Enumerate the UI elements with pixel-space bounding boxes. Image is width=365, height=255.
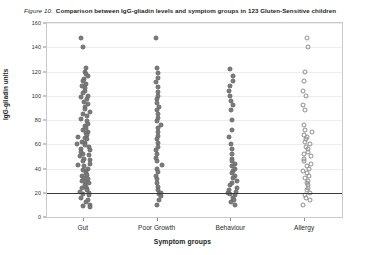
data-point [229, 108, 234, 113]
y-tick-label: 100 [32, 93, 41, 99]
data-point [302, 79, 307, 84]
data-point [75, 162, 80, 167]
data-point [79, 116, 84, 121]
y-tick-label: 140 [32, 44, 41, 50]
data-point [78, 35, 83, 40]
y-tick-label: 20 [35, 190, 41, 196]
y-tick-label: 0 [38, 214, 41, 220]
caption-text: Comparison between IgG-gliadin levels an… [56, 7, 336, 14]
y-tick-label: 160 [32, 20, 41, 26]
data-point [309, 154, 314, 159]
x-tick-label-allergy: Allergy [294, 224, 314, 231]
scatter-layer [47, 23, 342, 217]
data-point [302, 108, 307, 113]
x-tick-mark [230, 218, 231, 221]
figure-caption: Figure 10.Comparison between IgG-gliadin… [24, 6, 354, 15]
data-point [154, 35, 159, 40]
data-point [305, 45, 310, 50]
data-point [81, 204, 86, 209]
y-tick-label: 60 [35, 141, 41, 147]
data-point [235, 178, 240, 183]
x-tick-label-behaviour: Behaviour [216, 224, 246, 231]
y-tick-label: 120 [32, 69, 41, 75]
x-tick-label-poor-growth: Poor Growth [138, 224, 175, 231]
data-point [80, 45, 85, 50]
data-point [305, 35, 310, 40]
x-tick-mark [83, 218, 84, 221]
x-tick-mark [304, 218, 305, 221]
data-point [232, 202, 237, 207]
gridline [47, 23, 342, 24]
data-point [227, 67, 232, 72]
chart-plot-area [46, 22, 343, 218]
data-point [229, 127, 234, 132]
y-tick-label: 40 [35, 166, 41, 172]
gridline [47, 144, 342, 145]
data-point [302, 69, 307, 74]
data-point [309, 130, 314, 135]
gridline [47, 96, 342, 97]
data-point [300, 202, 305, 207]
data-point [155, 202, 160, 207]
y-tick-label: 80 [35, 117, 41, 123]
gridline [47, 120, 342, 121]
x-tick-label-gut: Gut [78, 224, 89, 231]
data-point [303, 93, 308, 98]
x-tick-mark [157, 218, 158, 221]
gridline [47, 169, 342, 170]
data-point [79, 195, 84, 200]
data-point [308, 198, 313, 203]
figure-number: Figure 10. [24, 7, 53, 14]
y-axis-ticks: 020406080100120140160 [0, 22, 46, 218]
gridline [47, 72, 342, 73]
data-point [159, 162, 164, 167]
data-point [227, 134, 232, 139]
x-axis-label: Symptom groups [0, 238, 365, 245]
data-point [87, 205, 92, 210]
gridline [47, 47, 342, 48]
data-point [230, 118, 235, 123]
threshold-line [47, 193, 342, 195]
